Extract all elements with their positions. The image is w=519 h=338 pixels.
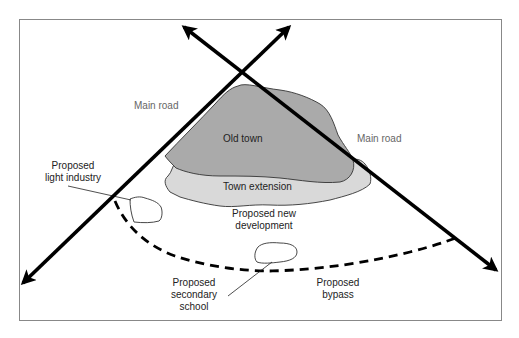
light-industry-line1: Proposed xyxy=(40,160,106,172)
old-town-label: Old town xyxy=(223,133,262,145)
bypass-label: Proposed bypass xyxy=(313,277,363,301)
main-road-left-label: Main road xyxy=(134,100,178,112)
secondary-school-site xyxy=(255,243,297,264)
new-development-line2: development xyxy=(224,220,304,232)
new-development-label: Proposed new development xyxy=(224,208,304,232)
school-line3: school xyxy=(164,301,224,313)
light-industry-label: Proposed light industry xyxy=(40,160,106,184)
bypass-line1: Proposed xyxy=(313,277,363,289)
school-line2: secondary xyxy=(164,289,224,301)
secondary-school-label: Proposed secondary school xyxy=(164,277,224,313)
bypass-line2: bypass xyxy=(313,289,363,301)
new-development-line1: Proposed new xyxy=(224,208,304,220)
main-road-right-label: Main road xyxy=(357,133,401,145)
school-line1: Proposed xyxy=(164,277,224,289)
town-extension-label: Town extension xyxy=(223,181,292,193)
light-industry-line2: light industry xyxy=(40,172,106,184)
